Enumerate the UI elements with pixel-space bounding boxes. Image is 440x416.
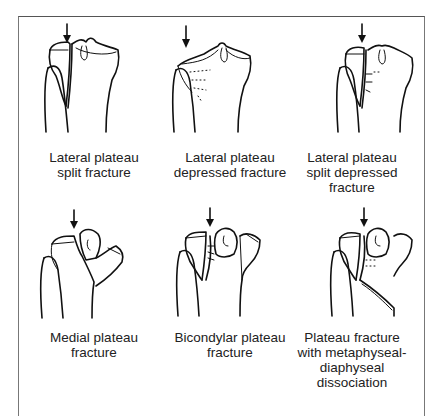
caption-line: Lateral plateau xyxy=(26,150,162,165)
panel-bicondylar: Bicondylar plateau fracture xyxy=(162,206,298,402)
caption-line: Bicondylar plateau xyxy=(162,330,298,345)
caption-line: split depressed xyxy=(284,165,420,180)
panel-medial: Medial plateau fracture xyxy=(26,206,162,402)
down-arrow-icon xyxy=(358,24,366,43)
tibia-split-depressed-fracture-illustration xyxy=(284,20,420,140)
tibia-depressed-fracture-illustration xyxy=(162,20,298,140)
panel-lateral-depressed: Lateral plateau depressed fracture xyxy=(162,20,298,190)
caption-line: diaphyseal xyxy=(284,360,420,375)
tibia-medial-fracture-illustration xyxy=(26,206,162,326)
caption-line: fracture xyxy=(162,345,298,360)
tibia-bicondylar-fracture-illustration xyxy=(162,206,298,326)
down-arrow-icon xyxy=(63,24,71,43)
caption-line: with metaphyseal- xyxy=(284,345,420,360)
caption-line: fracture xyxy=(26,345,162,360)
caption-line: dissociation xyxy=(284,375,420,390)
caption-line: Medial plateau xyxy=(26,330,162,345)
caption-line: split fracture xyxy=(26,165,162,180)
caption-line: Lateral plateau xyxy=(284,150,420,165)
down-arrow-icon xyxy=(206,208,214,227)
down-arrow-icon xyxy=(360,208,368,227)
panel-metaphyseal-diaphyseal: Plateau fracture with metaphyseal- diaph… xyxy=(284,206,420,402)
down-arrow-icon xyxy=(70,210,78,229)
caption-line: fracture xyxy=(284,180,420,195)
caption-line: Lateral plateau xyxy=(162,150,298,165)
panel-lateral-split: Lateral plateau split fracture xyxy=(26,20,162,190)
tibia-metaphyseal-diaphyseal-dissociation-illustration xyxy=(284,206,420,326)
down-arrow-icon xyxy=(182,26,190,48)
caption-line: depressed fracture xyxy=(162,165,298,180)
panel-lateral-split-depressed: Lateral plateau split depressed fracture xyxy=(284,20,420,190)
tibia-split-fracture-illustration xyxy=(26,20,162,140)
caption-line: Plateau fracture xyxy=(284,330,420,345)
